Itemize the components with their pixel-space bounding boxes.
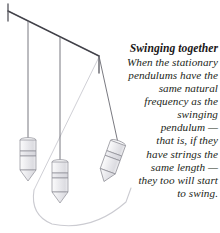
caption-line: that is, if they <box>124 134 218 147</box>
pendulum-3-string <box>99 56 118 143</box>
pendulum-1-stationary <box>20 21 36 181</box>
caption-line: swinging <box>124 108 218 121</box>
pendulum-1-bob <box>20 138 36 181</box>
caption-line: same natural <box>124 82 218 95</box>
caption-block: Swinging together When the stationary pe… <box>124 42 218 200</box>
caption-title: Swinging together <box>124 42 218 55</box>
caption-line: When the stationary <box>124 56 218 69</box>
caption-line: have strings the <box>124 148 218 161</box>
caption-line: same length — <box>124 161 218 174</box>
caption-line: to swing. <box>124 187 218 200</box>
caption-line: they too will start <box>124 174 218 187</box>
pendulum-2-stationary <box>52 37 68 203</box>
caption-body: When the stationary pendulums have the s… <box>124 56 218 200</box>
swing-arc <box>33 188 131 226</box>
support-bar <box>8 4 99 73</box>
caption-line: frequency as the <box>124 95 218 108</box>
pendulum-resonance-figure: Swinging together When the stationary pe… <box>0 0 220 233</box>
caption-line: pendulum — <box>124 121 218 134</box>
pendulum-2-bob <box>52 160 68 203</box>
pendulum-3-bob <box>96 138 126 184</box>
pendulum-3-swinging <box>96 56 126 184</box>
caption-line: pendulums have the <box>124 69 218 82</box>
